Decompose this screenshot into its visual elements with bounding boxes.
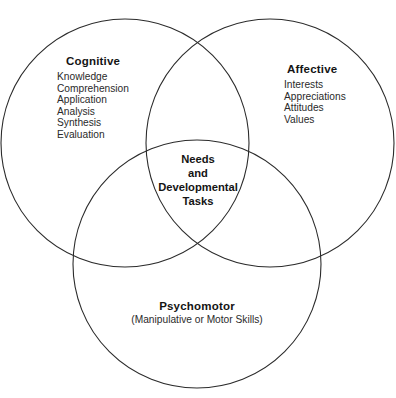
list-item: Comprehension (57, 83, 129, 95)
cognitive-label-block: Cognitive Knowledge Comprehension Applic… (57, 55, 129, 141)
list-item: Values (284, 114, 346, 126)
center-line: Tasks (148, 194, 248, 208)
affective-label-block: Affective Interests Appreciations Attitu… (284, 63, 346, 125)
venn-diagram: Cognitive Knowledge Comprehension Applic… (0, 0, 396, 398)
psychomotor-subtitle: (Manipulative or Motor Skills) (97, 314, 297, 326)
affective-list: Interests Appreciations Attitudes Values (284, 79, 346, 125)
affective-circle (146, 19, 394, 267)
list-item: Synthesis (57, 117, 129, 129)
psychomotor-title: Psychomotor (97, 300, 297, 313)
psychomotor-label-block: Psychomotor (Manipulative or Motor Skill… (97, 300, 297, 326)
list-item: Interests (284, 79, 346, 91)
list-item: Attitudes (284, 102, 346, 114)
center-line: Developmental (148, 180, 248, 194)
list-item: Analysis (57, 106, 129, 118)
list-item: Appreciations (284, 91, 346, 103)
center-line: Needs (148, 152, 248, 166)
list-item: Evaluation (57, 129, 129, 141)
list-item: Knowledge (57, 71, 129, 83)
center-line: and (148, 166, 248, 180)
cognitive-list: Knowledge Comprehension Application Anal… (57, 71, 129, 141)
list-item: Application (57, 94, 129, 106)
affective-title: Affective (287, 63, 346, 76)
cognitive-title: Cognitive (66, 55, 129, 68)
center-intersection-label: Needs and Developmental Tasks (148, 152, 248, 208)
